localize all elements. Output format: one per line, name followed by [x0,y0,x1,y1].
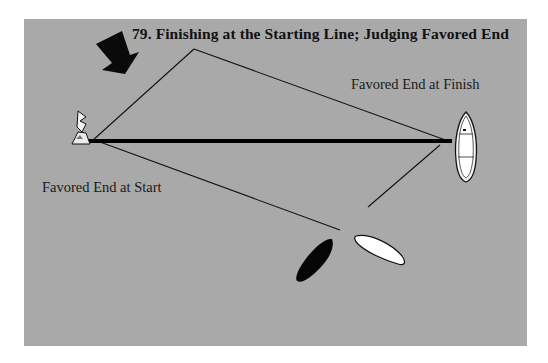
label-favored-end-finish: Favored End at Finish [351,76,479,93]
label-favored-end-start: Favored End at Start [42,179,162,196]
committee-boat-icon [455,112,476,182]
pin-flag-icon [72,111,90,144]
white-sailboat-icon [355,236,405,265]
figure-title: 79. Finishing at the Starting Line; Judg… [132,25,509,43]
black-sailboat-icon [296,239,333,282]
